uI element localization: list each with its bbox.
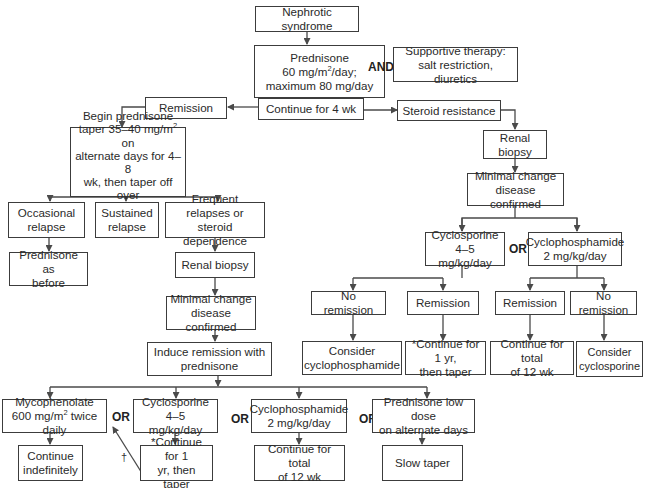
node-induce-remission: Induce remission with prednisone [147,342,272,376]
node-continue-4wk: Continue for 4 wk [258,98,364,120]
node-steroid-resistance: Steroid resistance [397,100,501,121]
mycophenolate-line1: Mycophenolate [15,395,94,409]
node-mcd-left: Minimal change disease confirmed [166,296,256,330]
node-remission-1: Remission [407,291,479,315]
node-consider-cyclosporine: Consider cyclosporine [576,341,643,377]
node-prednisone-as-before: Prednisone as before [9,252,88,286]
dagger-footnote-mark: † [121,451,127,463]
or-operator-1: OR [112,410,130,424]
node-no-remission-1: No remission [311,291,386,315]
node-prednisone-initial: Prednisone 60 mg/m2/day; maximum 80 mg/d… [254,45,385,98]
node-continue-indefinitely: Continue indefinitely [18,445,83,481]
node-continue-12wk-left: Continue for total of 12 wk [254,445,345,481]
node-continue-12wk-right: Continue for total of 12 wk [490,341,574,375]
taper-line3: alternate days for 4–8 [74,149,182,175]
node-sustained-relapse: Sustained relapse [95,202,159,238]
node-mcd-right: Minimal change disease confirmed [467,173,564,206]
node-prednisone-low-dose: Prednisone low dose on alternate days [372,399,475,433]
node-consider-cyclophosphamide: Consider cyclophosphamide [302,341,402,375]
and-operator: AND [368,60,394,74]
node-continue-1yr-right: *Continue for 1 yr, then taper [405,341,486,375]
node-begin-taper: Begin prednisone taper 35–40 mg/m2 on al… [70,127,186,197]
node-cyclosporine-right: Cyclosporine 4–5 mg/kg/day [425,232,505,266]
node-frequent-relapses: Frequent relapses or steroid dependence [165,202,265,238]
prednisone-line3: maximum 80 mg/day [266,79,374,93]
node-remission-2: Remission [495,291,565,315]
flowchart: Nephrotic syndrome Prednisone 60 mg/m2/d… [0,0,646,488]
node-cyclophosphamide-left: Cyclophosphamide 2 mg/kg/day [251,399,347,433]
mycophenolate-line2: 600 mg/m2 twice daily [6,409,103,437]
node-renal-biopsy-left: Renal biopsy [175,252,255,278]
node-nephrotic-syndrome: Nephrotic syndrome [255,6,359,32]
or-operator-right: OR [509,242,527,256]
node-slow-taper: Slow taper [382,445,463,481]
node-supportive-therapy: Supportive therapy: salt restriction, di… [393,47,518,82]
prednisone-line2: 60 mg/m2/day; [282,65,356,79]
node-renal-biopsy-right: Renal biopsy [483,130,547,159]
node-no-remission-2: No remission [570,291,637,315]
taper-line2: taper 35–40 mg/m2 on [74,122,182,148]
node-continue-1yr-left: *Continue for 1 yr, then taper [140,445,213,481]
node-cyclophosphamide-right: Cyclophosphamide 2 mg/kg/day [528,232,622,266]
taper-line1: Begin prednisone [83,109,173,122]
node-occasional-relapse: Occasional relapse [8,202,85,238]
or-operator-2: OR [231,412,249,426]
node-cyclosporine-left: Cyclosporine 4–5 mg/kg/day [133,399,218,433]
prednisone-line1: Prednisone [290,51,349,65]
taper-line4: wk, then taper off over [74,175,182,201]
node-mycophenolate: Mycophenolate 600 mg/m2 twice daily [2,399,107,433]
